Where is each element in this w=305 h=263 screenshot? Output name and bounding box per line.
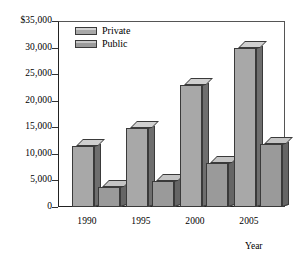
bar-public-1995 xyxy=(152,174,174,207)
x-axis-label-2005: 2005 xyxy=(219,216,279,226)
x-axis-label-2000: 2000 xyxy=(165,216,225,226)
bar-side-face xyxy=(282,142,289,207)
y-axis-label: $35,000 xyxy=(20,16,52,26)
bar-front-face xyxy=(72,146,94,207)
legend-item-private[interactable]: Private xyxy=(75,25,130,36)
x-axis-label-1995: 1995 xyxy=(111,216,171,226)
x-axis-label-1990: 1990 xyxy=(57,216,117,226)
bar-public-1990 xyxy=(98,180,120,207)
x-axis-title: Year xyxy=(245,241,263,251)
bar-front-face xyxy=(206,163,228,207)
y-axis-tick xyxy=(52,207,58,208)
y-axis-label: 0 xyxy=(47,202,52,212)
bar-chart: $35,000 30,000 25,000 20,000 15,000 10,0… xyxy=(0,0,305,263)
bar-front-face xyxy=(152,181,174,207)
legend-label-private: Private xyxy=(102,25,130,36)
legend-swatch-private xyxy=(75,27,97,35)
bar-front-face xyxy=(234,48,256,207)
bar-private-1990 xyxy=(72,139,94,207)
y-axis-label: 30,000 xyxy=(25,43,52,53)
y-axis-label: 10,000 xyxy=(25,149,52,159)
bar-private-2000 xyxy=(180,78,202,207)
bar-front-face xyxy=(98,187,120,207)
bar-private-2005 xyxy=(234,41,256,207)
y-axis-label: 15,000 xyxy=(25,122,52,132)
legend-swatch-top-face xyxy=(75,40,97,43)
legend: Private Public xyxy=(75,25,130,51)
legend-label-public: Public xyxy=(102,38,128,49)
y-axis-label: 5,000 xyxy=(30,175,52,185)
bar-public-2005 xyxy=(260,137,282,207)
bar-private-1995 xyxy=(126,121,148,207)
y-axis-label: 25,000 xyxy=(25,69,52,79)
legend-item-public[interactable]: Public xyxy=(75,38,130,49)
bar-front-face xyxy=(180,85,202,207)
bar-front-face xyxy=(126,128,148,207)
bar-public-2000 xyxy=(206,156,228,207)
legend-swatch-public xyxy=(75,40,97,48)
bar-front-face xyxy=(260,144,282,207)
legend-swatch-top-face xyxy=(75,27,97,30)
y-axis-label: 20,000 xyxy=(25,96,52,106)
